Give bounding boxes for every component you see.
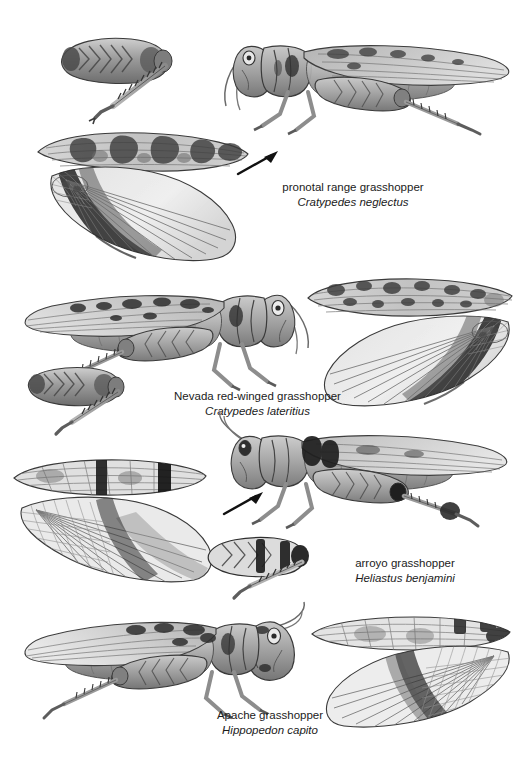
species-3-whole-body-lateral: [218, 410, 516, 546]
species-1-pointer-arrow: [234, 148, 284, 178]
species-3-caption: arroyo grasshopper Heliastus benjamini: [330, 556, 480, 585]
species-3-hind-leg-inset: [204, 528, 330, 600]
species-2-hind-leg-inset: [24, 358, 159, 436]
species-4-caption: Apache grasshopper Hippopedon capito: [180, 708, 360, 737]
species-1-hindwing-fan: [44, 162, 244, 266]
species-1-whole-body-lateral: [222, 18, 514, 146]
species-3-pointer-arrow: [220, 488, 268, 518]
species-4-scientific-name: Hippopedon capito: [180, 723, 360, 738]
species-1-common-name: pronotal range grasshopper: [268, 180, 438, 195]
species-1-caption: pronotal range grasshopper Cratypedes ne…: [268, 180, 438, 209]
species-3-hindwing-fan: [16, 492, 216, 584]
species-3-common-name: arroyo grasshopper: [330, 556, 480, 571]
species-3-scientific-name: Heliastus benjamini: [330, 571, 480, 586]
illustration-plate: pronotal range grasshopper Cratypedes ne…: [0, 0, 524, 770]
species-4-common-name: Apache grasshopper: [180, 708, 360, 723]
species-1-scientific-name: Cratypedes neglectus: [268, 195, 438, 210]
species-2-common-name: Nevada red-winged grasshopper: [160, 389, 355, 404]
species-1-hind-leg-inset: [55, 26, 200, 126]
